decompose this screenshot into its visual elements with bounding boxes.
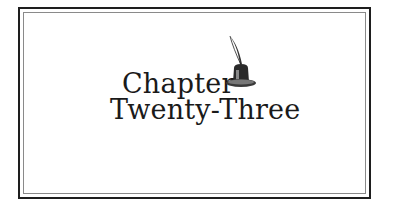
chapter-heading-line2: Twenty-Three — [110, 94, 300, 125]
quill-inkwell-icon — [222, 34, 258, 98]
